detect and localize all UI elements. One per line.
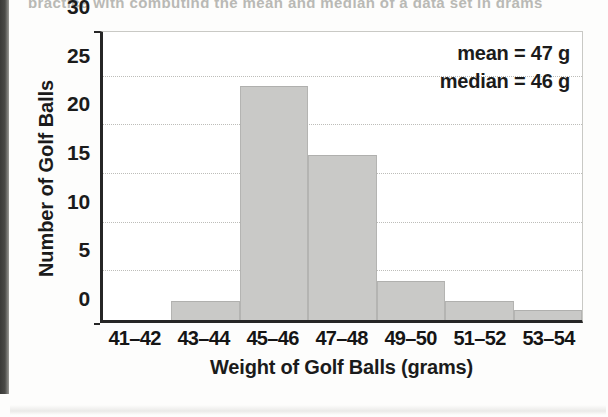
bar-cell-45-46 [240, 32, 308, 320]
bar-49-50 [377, 281, 445, 320]
y-tick-label-30: 30 [67, 0, 90, 19]
y-axis-title: Number of Golf Balls [35, 44, 58, 314]
y-tick-mark-0 [94, 323, 100, 325]
bar-53-54 [514, 310, 582, 320]
bar-cell-43-44 [171, 32, 239, 320]
annotation-mean: mean = 47 g [440, 40, 570, 68]
bar-cell-41-42 [103, 32, 171, 320]
x-tick-label-43-44: 43–44 [169, 327, 238, 350]
x-axis-ticks: 41–42 43–44 45–46 47–48 49–50 51–52 53–5… [100, 327, 583, 350]
x-tick-label-51-52: 51–52 [445, 327, 514, 350]
x-tick-label-47-48: 47–48 [307, 327, 376, 350]
x-axis-title: Weight of Golf Balls (grams) [100, 356, 583, 379]
bar-45-46 [240, 86, 308, 320]
bar-cell-47-48 [308, 32, 376, 320]
y-tick-label-5: 5 [79, 238, 90, 262]
page-bottom-smudge [10, 405, 606, 415]
bar-47-48 [308, 155, 376, 320]
x-tick-label-45-46: 45–46 [238, 327, 307, 350]
annotation-median: median = 46 g [440, 68, 570, 96]
bar-51-52 [445, 301, 513, 320]
bar-43-44 [171, 301, 239, 320]
bar-cell-49-50 [377, 32, 445, 320]
statistics-annotation: mean = 47 g median = 46 g [440, 40, 570, 95]
y-axis-ticks: 0 5 10 15 20 25 30 [60, 31, 94, 323]
y-tick-label-20: 20 [67, 92, 90, 116]
x-tick-label-41-42: 41–42 [100, 327, 169, 350]
y-tick-label-0: 0 [79, 287, 90, 311]
x-tick-label-49-50: 49–50 [376, 327, 445, 350]
x-tick-label-53-54: 53–54 [514, 327, 583, 350]
scanned-textbook-page: practice with computing the mean and med… [0, 0, 608, 417]
y-tick-label-10: 10 [67, 189, 90, 213]
histogram-chart: Number of Golf Balls 0 5 10 15 20 25 30 [0, 0, 608, 417]
y-tick-label-25: 25 [67, 43, 90, 67]
plot-area: mean = 47 g median = 46 g [100, 31, 583, 323]
y-tick-label-15: 15 [67, 141, 90, 165]
